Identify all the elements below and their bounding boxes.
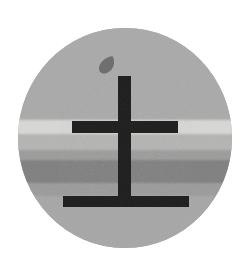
cross-grain-texture bbox=[60, 74, 192, 210]
emblem-graphic bbox=[0, 0, 252, 265]
cross-figure bbox=[60, 74, 192, 210]
image-canvas: Grayscale circular emblem showing banded… bbox=[0, 0, 252, 265]
